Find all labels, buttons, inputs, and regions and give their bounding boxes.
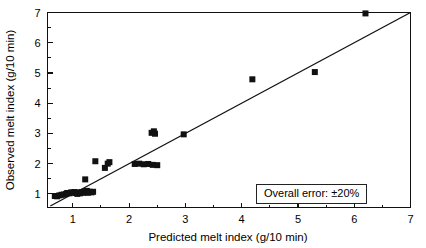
data-point-marker <box>154 162 160 168</box>
data-point-marker <box>312 69 318 75</box>
overall-error-annotation: Overall error: ±20% <box>256 184 367 204</box>
data-point-marker <box>90 189 96 195</box>
x-axis-title: Predicted melt index (g/10 min) <box>148 231 307 243</box>
y-axis-tick-labels: 1234567 <box>34 7 40 200</box>
x-axis-tick-labels: 1234567 <box>70 213 414 225</box>
x-tick-label: 1 <box>70 213 76 225</box>
x-tick-label: 2 <box>126 213 132 225</box>
y-tick-label: 6 <box>34 37 40 49</box>
data-point-marker <box>181 131 187 137</box>
y-axis-major-ticks <box>48 13 53 194</box>
melt-index-parity-figure: 1234567 1234567 Predicted melt index (g/… <box>0 0 426 248</box>
x-tick-label: 4 <box>239 213 245 225</box>
y-tick-label: 5 <box>34 67 40 79</box>
data-point-marker <box>362 10 368 16</box>
scatter-plot-canvas: 1234567 1234567 Predicted melt index (g/… <box>0 0 426 248</box>
data-point-marker <box>92 158 98 164</box>
data-point-marker <box>249 76 255 82</box>
parity-reference-line <box>50 13 410 206</box>
data-point-marker <box>82 176 88 182</box>
data-point-marker <box>106 159 112 165</box>
x-tick-label: 7 <box>407 213 413 225</box>
x-tick-label: 3 <box>182 213 188 225</box>
data-point-markers <box>52 10 369 199</box>
x-tick-label: 6 <box>351 213 357 225</box>
data-point-marker <box>152 131 158 137</box>
x-tick-label: 5 <box>295 213 301 225</box>
y-tick-label: 4 <box>34 97 40 109</box>
y-tick-label: 1 <box>34 188 40 200</box>
y-tick-label: 2 <box>34 158 40 170</box>
y-tick-label: 3 <box>34 127 40 139</box>
y-tick-label: 7 <box>34 7 40 19</box>
y-axis-title: Observed melt index (g/10 min) <box>4 30 16 191</box>
